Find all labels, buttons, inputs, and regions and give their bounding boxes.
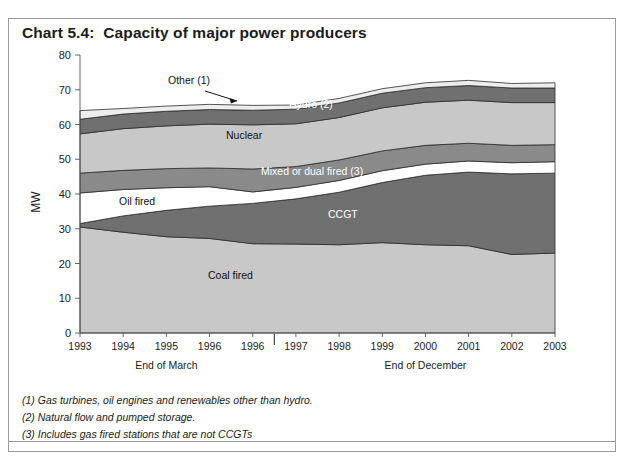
series-label-oil: Oil fired (119, 195, 155, 207)
series-label-ccgt: CCGT (328, 208, 358, 220)
x-tick-label: 1995 (155, 340, 179, 352)
footnote-divider (9, 441, 615, 442)
y-tick-label: 50 (59, 153, 71, 165)
y-axis-title: MW (29, 191, 43, 213)
y-tick-label: 10 (59, 292, 71, 304)
footnote-2: (2) Natural flow and pumped storage. (22, 409, 582, 426)
x-tick-label: 1994 (112, 340, 136, 352)
x-group-label-march: End of March (135, 359, 198, 371)
x-tick-label: 2001 (457, 340, 481, 352)
y-tick-label: 0 (65, 327, 71, 339)
x-tick-label: 2000 (414, 340, 438, 352)
series-label-mixed: Mixed or dual fired (3) (261, 165, 363, 177)
chart-page: Chart 5.4: Capacity of major power produ… (0, 0, 626, 462)
x-tick-label: 1996 (198, 340, 222, 352)
series-label-coal: Coal fired (208, 269, 253, 281)
x-tick-label: 2002 (500, 340, 524, 352)
x-tick-label: 1997 (284, 340, 308, 352)
x-group-label-december: End of December (385, 359, 467, 371)
x-tick-label: 1993 (68, 340, 92, 352)
footnotes: (1) Gas turbines, oil engines and renewa… (22, 392, 582, 443)
series-label-nuclear: Nuclear (226, 129, 263, 141)
x-tick-label: 1999 (371, 340, 395, 352)
footnote-1: (1) Gas turbines, oil engines and renewa… (22, 392, 582, 409)
x-tick-label: 1998 (327, 340, 351, 352)
y-tick-label: 20 (59, 258, 71, 270)
y-tick-label: 80 (59, 49, 71, 61)
x-tick-label: 1996 (241, 340, 265, 352)
y-tick-label: 40 (59, 188, 71, 200)
y-tick-label: 60 (59, 119, 71, 131)
series-label-hydro: Hydro (2) (289, 98, 333, 110)
y-tick-label: 70 (59, 84, 71, 96)
series-label-other: Other (1) (168, 74, 210, 86)
y-tick-label: 30 (59, 223, 71, 235)
x-tick-label: 2003 (543, 340, 567, 352)
